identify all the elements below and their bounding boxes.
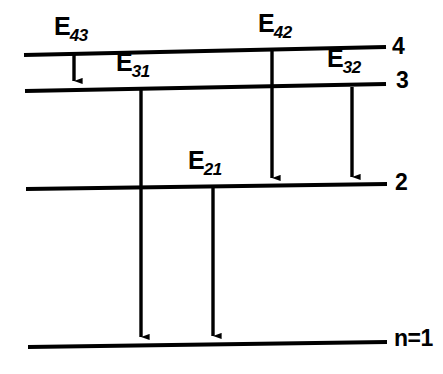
level-lines-group — [24, 47, 387, 347]
level-label-1: n=1 — [394, 327, 433, 350]
transition-label-E31: E31 — [116, 50, 151, 78]
transition-arrows-group — [74, 51, 352, 337]
transition-label-E21-base: E — [188, 146, 205, 174]
transition-label-E42-base: E — [258, 9, 275, 37]
transition-label-E21-sub: 21 — [204, 160, 222, 179]
transition-label-E32-base: E — [327, 44, 344, 72]
transition-label-E42: E42 — [258, 11, 293, 39]
transition-label-E42-sub: 42 — [274, 23, 292, 42]
diagram-canvas — [0, 0, 443, 374]
transition-label-E32: E32 — [327, 46, 362, 74]
level-label-2: 2 — [395, 171, 407, 194]
level-line-2 — [26, 184, 387, 189]
transition-label-E43-base: E — [54, 12, 71, 40]
transition-label-E43-sub: 43 — [70, 26, 88, 45]
transition-label-E32-sub: 32 — [343, 58, 361, 77]
transition-label-E43: E43 — [54, 14, 89, 42]
energy-level-diagram: E43 E31 E21 E42 E32 4 3 2 n=1 — [0, 0, 443, 374]
level-label-3: 3 — [396, 69, 408, 92]
transition-label-E31-sub: 31 — [132, 62, 150, 81]
level-line-3 — [25, 84, 386, 91]
level-label-4: 4 — [392, 35, 404, 58]
transition-label-E21: E21 — [188, 148, 223, 176]
transition-label-E31-base: E — [116, 48, 133, 76]
level-line-1 — [28, 342, 387, 347]
